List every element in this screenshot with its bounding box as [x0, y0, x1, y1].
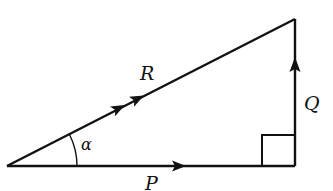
label-q: Q: [304, 92, 320, 114]
right-angle-marker: [262, 135, 295, 166]
label-r: R: [139, 62, 154, 84]
label-alpha: α: [81, 135, 92, 154]
vector-triangle-diagram: R Q P α: [0, 0, 333, 191]
label-p: P: [144, 172, 159, 191]
vector-r-line: [7, 19, 295, 166]
angle-arc: [70, 135, 78, 167]
